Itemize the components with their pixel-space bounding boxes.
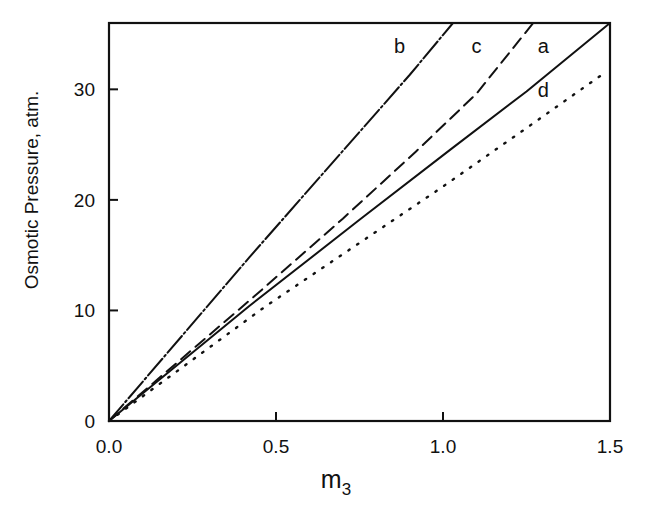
curve-a: [109, 23, 610, 421]
y-axis: 0102030: [74, 79, 118, 432]
plot-frame: [109, 23, 610, 421]
x-tick-label: 1.0: [430, 436, 456, 457]
y-axis-title: Osmotic Pressure, atm.: [21, 91, 42, 290]
curve-label-b: b: [394, 35, 405, 57]
curve-label-a: a: [538, 35, 550, 57]
y-tick-label: 20: [74, 190, 95, 211]
plot-lines: [109, 23, 610, 421]
curve-c: [109, 23, 533, 421]
curve-label-c: c: [471, 35, 481, 57]
x-axis-title-subscript: 3: [342, 480, 351, 499]
x-tick-label: 0.0: [96, 436, 122, 457]
y-tick-label: 30: [74, 79, 95, 100]
y-tick-label: 10: [74, 300, 95, 321]
x-axis-title: m3: [321, 465, 351, 499]
curve-b: [109, 23, 453, 421]
curve-label-d: d: [538, 79, 549, 101]
osmotic-pressure-chart: 0.00.51.01.5 0102030 bcad Osmotic Pressu…: [0, 0, 648, 527]
x-tick-label: 0.5: [263, 436, 289, 457]
x-tick-label: 1.5: [597, 436, 623, 457]
y-tick-label: 0: [84, 411, 95, 432]
x-axis: 0.00.51.01.5: [96, 412, 623, 457]
x-axis-title-main: m: [321, 465, 342, 493]
curve-d: [109, 76, 600, 421]
